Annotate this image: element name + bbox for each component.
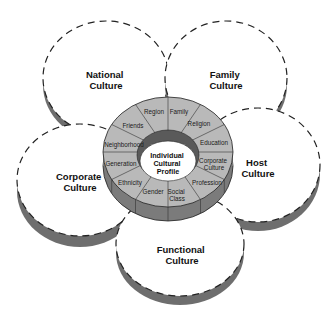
label-national-culture: National Culture xyxy=(86,69,126,91)
segment-social-class: Social Class xyxy=(168,188,187,202)
individual-profile-ring: Individual Cultural Profile Family Relig… xyxy=(103,97,233,221)
segment-region: Region xyxy=(144,108,164,116)
segment-profession: Profession xyxy=(192,179,222,186)
segment-friends: Friends xyxy=(123,122,144,129)
segment-ethnicity: Ethnicity xyxy=(118,179,143,187)
segment-gender: Gender xyxy=(142,188,163,195)
label-family-culture: Family Culture xyxy=(209,69,242,91)
segment-generation: Generation xyxy=(105,160,137,167)
segment-religion: Religion xyxy=(188,120,211,128)
segment-education: Education xyxy=(200,139,229,146)
segment-family: Family xyxy=(170,108,189,116)
label-host-culture: Host Culture xyxy=(241,157,274,179)
segment-neighborhood: Neighborhood xyxy=(104,141,144,149)
cultural-profile-diagram: National Culture Family Culture Host Cul… xyxy=(0,0,333,326)
